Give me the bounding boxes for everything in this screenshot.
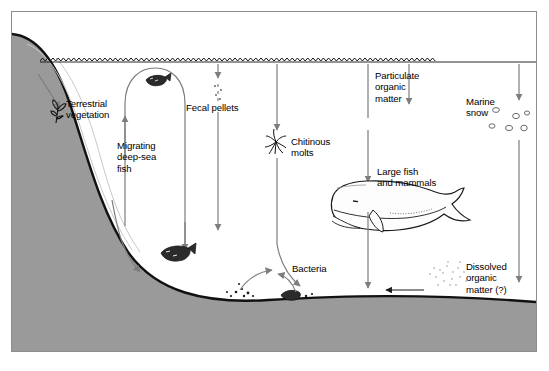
label-chitinous-molts: Chitinous molts xyxy=(291,136,330,159)
seafloor-detritus-left xyxy=(226,283,254,297)
small-fish-icon-deep xyxy=(161,243,196,261)
label-terrestrial-vegetation: Terrestrial vegetation xyxy=(66,98,109,121)
arrow-bacteria-left xyxy=(240,270,272,290)
label-migrating-deep-sea-fish: Migrating deep-sea fish xyxy=(117,140,156,174)
label-particulate-organic-matter: Particulate organic matter xyxy=(375,70,419,104)
small-fish-icon-surface xyxy=(146,73,171,86)
dom-stipple-cloud xyxy=(429,261,467,286)
arrow-bacteria-right xyxy=(278,274,296,292)
chitinous-molt-icon xyxy=(265,129,286,154)
label-fecal-pellets: Fecal pellets xyxy=(186,102,239,113)
label-large-fish-and-mammals: Large fish and mammals xyxy=(377,166,436,189)
label-marine-snow: Marine snow xyxy=(466,96,495,119)
label-bacteria: Bacteria xyxy=(292,263,326,274)
diagram-graphics xyxy=(0,0,549,371)
label-dissolved-organic-matter: Dissolved organic matter (?) xyxy=(466,261,507,295)
marine-snow-flake-icons xyxy=(489,108,530,131)
water-surface xyxy=(40,58,536,62)
figure-canvas: Terrestrial vegetation Migrating deep-se… xyxy=(0,0,549,371)
